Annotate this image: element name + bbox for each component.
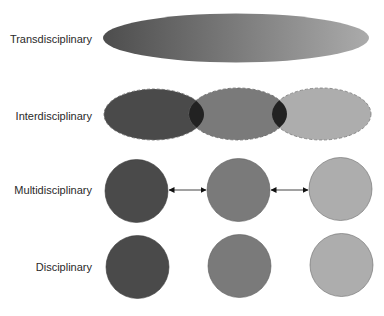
multidisciplinary-circle-2: [207, 159, 270, 222]
multidisciplinary-circle-1: [105, 160, 168, 223]
disciplinarity-diagram: [0, 0, 384, 316]
interdisciplinary-group: [104, 88, 371, 140]
disciplinary-circle-3: [310, 234, 373, 297]
disciplinary-circle-2: [208, 235, 271, 298]
disciplinary-group: [106, 234, 373, 299]
disciplinary-circle-1: [106, 236, 169, 299]
transdisciplinary-group: [103, 14, 369, 63]
multidisciplinary-circle-3: [309, 158, 372, 221]
transdisciplinary-ellipse: [103, 14, 369, 63]
interdisciplinary-ellipse-1: [104, 89, 204, 140]
multidisciplinary-group: [105, 158, 372, 223]
